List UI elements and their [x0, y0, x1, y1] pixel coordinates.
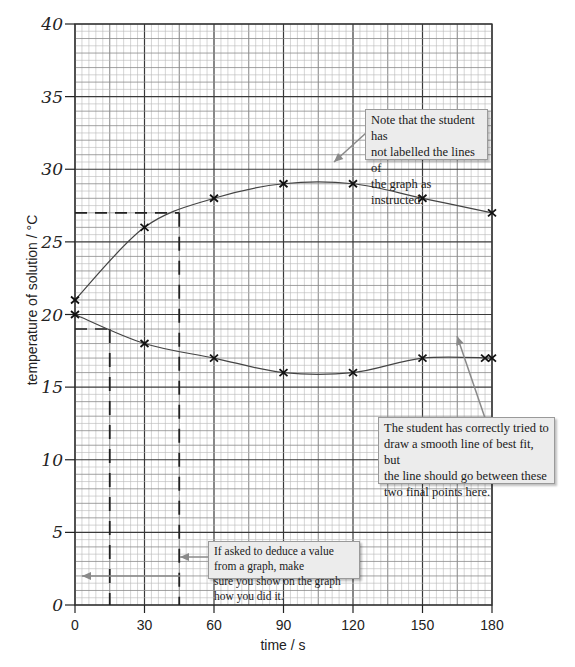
x-tick-label: 120 — [341, 617, 365, 633]
y-tick-label: 10 — [41, 450, 63, 470]
note-smooth-line: The student has correctly tried to draw … — [378, 417, 555, 484]
note-unlabelled-lines: Note that the student has not labelled t… — [365, 109, 488, 160]
y-axis-label: temperature of solution / °C — [24, 215, 40, 386]
note-text-line: the line should go between these — [384, 468, 549, 484]
x-tick-label: 30 — [137, 617, 153, 633]
note-text-line: the graph as instructed. — [371, 176, 482, 208]
arrowhead-icon — [82, 572, 91, 580]
note-text-line: Note that the student has — [371, 112, 482, 144]
y-tick-label: 0 — [52, 595, 63, 615]
x-axis-tick-labels: 0306090120150180 — [71, 605, 504, 633]
y-axis-tick-labels: 0510152025303540 — [40, 14, 75, 615]
y-tick-label: 15 — [41, 377, 63, 397]
y-tick-label: 20 — [40, 305, 63, 325]
note-text-line: sure you show on the graph how you did i… — [214, 574, 354, 604]
y-tick-label: 5 — [52, 522, 63, 542]
x-axis-label: time / s — [260, 637, 305, 653]
note-text-line: If asked to deduce a value from a graph,… — [214, 544, 354, 574]
note-text-line: draw a smooth line of best fit, but — [384, 436, 549, 468]
y-tick-label: 25 — [40, 232, 63, 252]
x-tick-label: 90 — [276, 617, 292, 633]
note-text-line: The student has correctly tried to — [384, 420, 549, 436]
y-tick-label: 40 — [40, 14, 63, 34]
note-deduce-value: If asked to deduce a value from a graph,… — [208, 541, 360, 579]
x-tick-label: 60 — [206, 617, 222, 633]
x-tick-label: 0 — [71, 617, 79, 633]
arrowhead-icon — [456, 336, 464, 346]
x-tick-label: 180 — [480, 617, 504, 633]
note-text-line: two final points here. — [384, 484, 549, 500]
y-tick-label: 30 — [41, 159, 63, 179]
y-tick-label: 35 — [41, 87, 63, 107]
note-text-line: not labelled the lines of — [371, 144, 482, 176]
x-tick-label: 150 — [411, 617, 435, 633]
